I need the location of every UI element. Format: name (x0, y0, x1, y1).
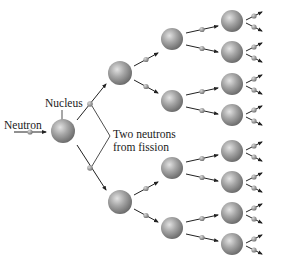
nucleus-icon (51, 119, 75, 143)
fission-bracket (92, 106, 110, 166)
neutron-icon (251, 107, 256, 112)
nucleus-icon (221, 171, 243, 193)
nucleus-icon (108, 190, 132, 214)
neutron-icon (251, 55, 256, 60)
nucleus-icon (161, 217, 183, 239)
neutron-icon (199, 175, 204, 180)
fission-label-line1: Two neutrons (113, 128, 176, 140)
fission-neutron-lower-icon (87, 165, 93, 171)
neutron-icon (251, 143, 256, 148)
neutron-icon (251, 236, 256, 241)
fission-neutron-upper-icon (87, 101, 93, 107)
neutron-icon (251, 118, 256, 123)
neutron-icon (199, 108, 204, 113)
neutron-icon (251, 13, 256, 18)
neutron-icon (251, 24, 256, 29)
neutron-icon (199, 46, 204, 51)
nucleus-icon (221, 202, 243, 224)
neutron-icon (143, 186, 148, 191)
neutron-icon (251, 247, 256, 252)
nucleus-icon (221, 10, 243, 32)
neutron-icon (251, 174, 256, 179)
nucleus-label: Nucleus (45, 97, 83, 109)
nucleus-icon (221, 73, 243, 95)
nucleus-icon (161, 90, 183, 112)
neutron-icon (251, 216, 256, 221)
neutron-icon (143, 84, 148, 89)
neutron-icon (251, 44, 256, 49)
neutron-icon (199, 27, 204, 32)
neutron-icon (199, 216, 204, 221)
nucleus-icon (161, 157, 183, 179)
nucleus-icon (221, 233, 243, 255)
neutron-icon (251, 76, 256, 81)
nucleus-icon (221, 41, 243, 63)
nucleus-icon (108, 61, 132, 85)
neutron-icon (251, 185, 256, 190)
fission-label-line2: from fission (113, 141, 169, 153)
neutron-icon (143, 57, 148, 62)
neutron-icon (199, 89, 204, 94)
nucleus-icon (161, 28, 183, 50)
nucleus-icon (221, 104, 243, 126)
neutron-icon (199, 156, 204, 161)
neutron-icon (143, 213, 148, 218)
neutron-icon (251, 205, 256, 210)
neutron-icon (251, 154, 256, 159)
nucleus-icon (221, 140, 243, 162)
neutron-label: Neutron (4, 119, 42, 131)
neutron-icon (251, 87, 256, 92)
neutron-icon (199, 235, 204, 240)
